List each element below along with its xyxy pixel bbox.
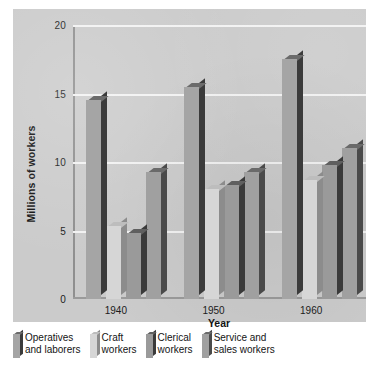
- bar-front-face: [342, 148, 357, 299]
- y-tick-label: 15: [54, 88, 66, 99]
- bar-side-face: [239, 177, 245, 295]
- bar-side-face: [297, 51, 303, 295]
- bar-front-face: [302, 180, 317, 299]
- x-tick-label: 1950: [202, 305, 224, 316]
- swatch-front-face: [146, 334, 153, 358]
- plot-axes: 05101520: [73, 25, 366, 299]
- bar-front-face: [244, 172, 259, 299]
- gridline: [73, 25, 366, 27]
- bar: [146, 172, 161, 299]
- bar-front-face: [86, 100, 101, 299]
- bar-side-face: [337, 156, 343, 295]
- swatch-front-face: [202, 334, 209, 358]
- bar: [302, 180, 317, 299]
- bar-front-face: [184, 87, 199, 299]
- x-tick-label: 1940: [105, 305, 127, 316]
- legend-entry: Craft workers: [90, 332, 137, 358]
- legend-swatch: [202, 334, 209, 358]
- x-axis-title: Year: [208, 317, 230, 329]
- legend-label: Service and sales workers: [214, 332, 275, 356]
- legend-swatch: [146, 334, 153, 358]
- legend-label: Operatives and laborers: [25, 332, 81, 356]
- bar-side-face: [219, 181, 225, 295]
- bar: [204, 189, 219, 299]
- bar-front-face: [224, 185, 239, 299]
- bar: [282, 59, 297, 299]
- y-tick-label: 0: [60, 294, 66, 305]
- bar-front-face: [204, 189, 219, 299]
- gridline: [73, 94, 366, 96]
- bar-front-face: [106, 226, 121, 299]
- legend-entry: Service and sales workers: [202, 332, 275, 358]
- bar: [184, 87, 199, 299]
- bar: [106, 226, 121, 299]
- bar-side-face: [101, 92, 107, 295]
- plot-panel: Millions of workers 05101520 19401950196…: [13, 9, 366, 322]
- bar-front-face: [146, 172, 161, 299]
- bar-side-face: [259, 163, 265, 295]
- bar-front-face: [322, 165, 337, 299]
- bar-side-face: [317, 171, 323, 295]
- bar-side-face: [357, 140, 363, 295]
- bar-side-face: [121, 218, 127, 295]
- bar: [126, 233, 141, 299]
- gridline: [73, 162, 366, 164]
- legend-swatch: [90, 334, 97, 358]
- y-axis-title: Millions of workers: [25, 126, 37, 223]
- bar-side-face: [141, 225, 147, 295]
- legend-entry: Operatives and laborers: [13, 332, 81, 358]
- legend-label: Craft workers: [102, 332, 137, 356]
- bar-side-face: [199, 78, 205, 295]
- legend-entry: Clerical workers: [146, 332, 193, 358]
- chart-legend: Operatives and laborersCraft workersCler…: [13, 332, 366, 372]
- y-tick-label: 5: [60, 225, 66, 236]
- y-tick-label: 20: [54, 20, 66, 31]
- y-tick-label: 10: [54, 157, 66, 168]
- legend-swatch: [13, 334, 20, 358]
- bar-side-face: [161, 163, 167, 295]
- bar: [342, 148, 357, 299]
- bar: [86, 100, 101, 299]
- legend-label: Clerical workers: [158, 332, 193, 356]
- bar-front-face: [282, 59, 297, 299]
- bar-chart-figure: Millions of workers 05101520 19401950196…: [0, 0, 379, 377]
- bar-front-face: [126, 233, 141, 299]
- swatch-front-face: [13, 334, 20, 358]
- x-tick-label: 1960: [300, 305, 322, 316]
- bar: [224, 185, 239, 299]
- bar: [322, 165, 337, 299]
- swatch-front-face: [90, 334, 97, 358]
- bar: [244, 172, 259, 299]
